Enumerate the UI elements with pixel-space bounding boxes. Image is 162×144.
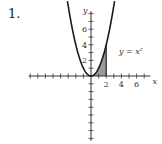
parabola-plot: 246246xyy = x² xyxy=(0,0,162,144)
y-tick-label: 2 xyxy=(82,56,87,65)
y-tick-label: 6 xyxy=(82,25,87,34)
x-tick-label: 2 xyxy=(104,80,109,89)
x-axis-label: x xyxy=(153,77,158,86)
x-tick-label: 4 xyxy=(119,80,124,89)
y-tick-label: 4 xyxy=(82,41,87,50)
curve-label: y = x² xyxy=(118,47,143,56)
x-tick-label: 6 xyxy=(134,80,139,89)
y-axis-label: y xyxy=(82,6,88,15)
